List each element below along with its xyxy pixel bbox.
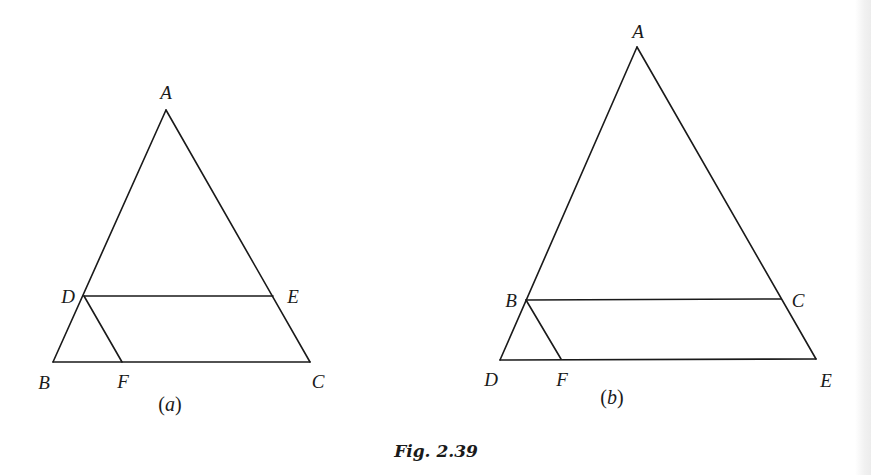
subcaption-b: (b) (600, 386, 623, 409)
vertex-label-f: F (556, 370, 568, 389)
vertex-label-b: B (38, 373, 50, 392)
vertex-label-e: E (287, 287, 299, 306)
segment-AB (53, 110, 166, 362)
subcaption-b-text: (b) (600, 386, 623, 408)
segment-AD (500, 47, 637, 360)
vertex-label-e: E (820, 371, 832, 390)
segment-AC (166, 110, 310, 362)
triangle-diagram-a (53, 110, 310, 362)
vertex-label-a: A (632, 22, 644, 41)
vertex-label-c: C (792, 291, 805, 310)
subcaption-a-text: (a) (158, 393, 181, 415)
segment-BC (526, 299, 781, 300)
vertex-label-f: F (117, 372, 129, 391)
segment-AE (637, 47, 816, 359)
page-edge-shadow (855, 0, 871, 475)
vertex-label-d: D (61, 287, 75, 306)
figure-canvas (0, 0, 871, 475)
vertex-label-a: A (160, 83, 172, 102)
subcaption-a: (a) (158, 393, 181, 416)
segment-BF (526, 300, 561, 359)
vertex-label-b: B (505, 291, 517, 310)
vertex-label-c: C (312, 372, 325, 391)
segment-DF (84, 296, 122, 362)
vertex-label-d: D (484, 370, 498, 389)
segment-DE (500, 359, 816, 360)
figure-caption: Fig. 2.39 (394, 441, 478, 461)
triangle-diagram-b (500, 47, 816, 360)
